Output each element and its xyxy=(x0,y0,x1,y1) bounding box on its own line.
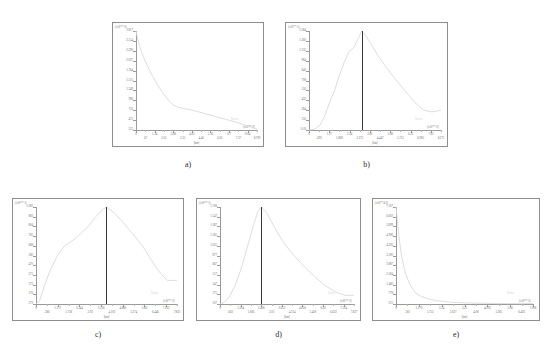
plot-area-a: (x10**-2)2.8172.5542.2902.0271.7641.5151… xyxy=(112,22,264,147)
figure-root: (x10**-2)2.8172.5542.2902.0271.7641.5151… xyxy=(0,0,551,351)
curve-b xyxy=(285,22,448,147)
peak-marker-b xyxy=(362,31,363,130)
plot-area-b: (x10**-1)1.3841.2601.1339848407085504322… xyxy=(285,22,448,147)
chart-panel-e: (x10**4-2)7.1076.6025.8994.9964.2933.590… xyxy=(372,198,540,321)
curve-d xyxy=(196,198,361,321)
chart-panel-c: (x10**-1)1.08388380478168858047037127317… xyxy=(12,198,184,321)
chart-panel-b: (x10**-1)1.3841.2601.1339848407085504322… xyxy=(285,22,448,147)
peak-marker-c xyxy=(106,207,107,304)
panel-caption-d: d) xyxy=(196,330,361,339)
panel-caption-e: e) xyxy=(372,330,540,339)
plot-area-d: (x10**-1)1.7061.5471.3871.1851.025877667… xyxy=(196,198,361,321)
panel-caption-b: b) xyxy=(285,160,448,169)
curve-c xyxy=(12,198,184,321)
chart-panel-d: (x10**-1)1.7061.5471.3871.1851.025877667… xyxy=(196,198,361,321)
plot-area-e: (x10**4-2)7.1076.6025.8994.9964.2933.590… xyxy=(372,198,540,321)
plot-area-c: (x10**-1)1.08388380478168858047037127317… xyxy=(12,198,184,321)
curve-e xyxy=(372,198,540,321)
chart-panel-a: (x10**-2)2.8172.5542.2902.0271.7641.5151… xyxy=(112,22,264,147)
curve-a xyxy=(112,22,264,147)
panel-caption-c: c) xyxy=(12,330,184,339)
panel-caption-a: a) xyxy=(112,160,264,169)
peak-marker-d xyxy=(261,207,262,304)
